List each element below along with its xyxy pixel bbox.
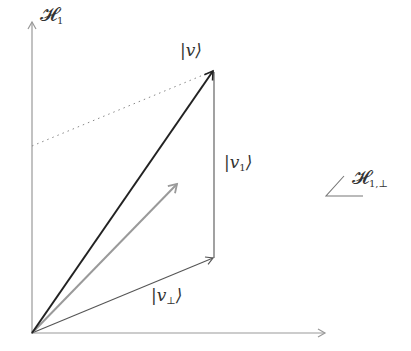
vector-v [32, 71, 213, 333]
label-h1perp-main: 𝓗 [352, 166, 369, 188]
label-h1-sub: 1 [57, 15, 63, 26]
vector-gray [32, 184, 177, 333]
label-v: |v⟩ [180, 40, 202, 60]
label-v1-pre: |v [224, 152, 239, 172]
label-h1: 𝓗1 [40, 3, 63, 26]
label-v1: |v1⟩ [224, 152, 252, 173]
label-vperp-sub: ⊥ [166, 295, 175, 306]
label-v-perp: |v⊥⟩ [151, 285, 182, 306]
vector-v-perp [32, 258, 213, 333]
label-h1perp-sub: 1,⊥ [369, 178, 388, 189]
label-vperp-pre: |v [151, 285, 166, 305]
diagram-svg [0, 0, 411, 351]
label-vperp-post: ⟩ [176, 285, 183, 305]
diagram-canvas: 𝓗1 |v⟩ |v1⟩ |v⊥⟩ 𝓗1,⊥ [0, 0, 411, 351]
dotted-projection-line [32, 73, 208, 146]
label-h1-perp: 𝓗1,⊥ [352, 166, 388, 189]
label-h1-main: 𝓗 [40, 3, 57, 25]
label-v1-post: ⟩ [246, 152, 253, 172]
